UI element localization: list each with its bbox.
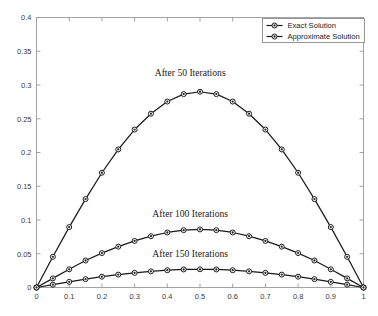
y-tick-label: 0.05 [17, 250, 32, 259]
chart-background [0, 0, 378, 316]
data-point-dot [330, 268, 332, 270]
x-tick-label: 0.4 [162, 292, 172, 301]
figure-container: 00.10.20.30.40.50.60.70.80.91 00.050.10.… [0, 0, 378, 316]
data-point-dot [215, 268, 217, 270]
data-point-dot [313, 278, 315, 280]
data-point-dot [117, 148, 119, 150]
data-point-dot [166, 269, 168, 271]
y-tick-label: 0.3 [21, 81, 31, 90]
legend-marker-dot [273, 35, 275, 37]
data-point-dot [133, 128, 135, 130]
data-point-dot [297, 276, 299, 278]
data-point-dot [264, 128, 266, 130]
x-tick-label: 0.3 [129, 292, 139, 301]
x-tick-label: 0.9 [326, 292, 336, 301]
data-point-dot [248, 270, 250, 272]
data-point-dot [52, 284, 54, 286]
data-point-dot [150, 113, 152, 115]
data-point-dot [281, 273, 283, 275]
annotation-text: After 100 Iterations [152, 208, 228, 219]
data-point-dot [84, 259, 86, 261]
data-point-dot [313, 198, 315, 200]
legend-marker-dot [273, 24, 275, 26]
data-point-dot [215, 93, 217, 95]
data-point-dot [133, 240, 135, 242]
data-point-dot [232, 269, 234, 271]
y-tick-label: 0.15 [17, 182, 32, 191]
y-tick-label: 0.4 [21, 13, 31, 22]
data-point-dot [117, 246, 119, 248]
x-tick-label: 0.8 [293, 292, 303, 301]
data-point-dot [117, 273, 119, 275]
x-tick-label: 0.5 [195, 292, 205, 301]
data-point-dot [346, 284, 348, 286]
data-point-dot [297, 172, 299, 174]
annotation-text: After 50 Iterations [155, 67, 226, 78]
data-point-dot [150, 270, 152, 272]
data-point-dot [101, 276, 103, 278]
x-tick-label: 0 [34, 292, 38, 301]
data-point-dot [52, 256, 54, 258]
x-tick-label: 0.1 [64, 292, 74, 301]
data-point-dot [84, 278, 86, 280]
data-point-dot [101, 172, 103, 174]
data-point-dot [199, 268, 201, 270]
y-tick-label: 0 [27, 283, 31, 292]
data-point-dot [199, 228, 201, 230]
data-point-dot [166, 100, 168, 102]
data-point-dot [84, 198, 86, 200]
line-chart: 00.10.20.30.40.50.60.70.80.91 00.050.10.… [0, 0, 378, 316]
data-point-dot [150, 235, 152, 237]
data-point-dot [362, 286, 364, 288]
data-point-dot [232, 100, 234, 102]
data-point-dot [281, 246, 283, 248]
y-tick-label: 0.35 [17, 47, 32, 56]
data-point-dot [199, 91, 201, 93]
data-point-dot [297, 252, 299, 254]
data-point-dot [330, 281, 332, 283]
x-tick-label: 0.2 [97, 292, 107, 301]
data-point-dot [183, 93, 185, 95]
data-point-dot [133, 272, 135, 274]
data-point-dot [330, 226, 332, 228]
y-tick-label: 0.1 [21, 216, 31, 225]
data-point-dot [232, 231, 234, 233]
data-point-dot [248, 235, 250, 237]
data-point-dot [68, 226, 70, 228]
chart-legend[interactable]: Exact SolutionApproximate Solution [263, 19, 365, 43]
data-point-dot [346, 256, 348, 258]
data-point-dot [101, 252, 103, 254]
data-point-dot [313, 259, 315, 261]
data-point-dot [264, 272, 266, 274]
data-point-dot [68, 281, 70, 283]
legend-label: Approximate Solution [288, 32, 360, 41]
data-point-dot [248, 113, 250, 115]
data-point-dot [215, 229, 217, 231]
x-tick-label: 1 [361, 292, 365, 301]
data-point-dot [183, 268, 185, 270]
data-point-dot [346, 277, 348, 279]
data-point-dot [281, 148, 283, 150]
x-tick-label: 0.6 [227, 292, 237, 301]
data-point-dot [35, 286, 37, 288]
data-point-dot [68, 268, 70, 270]
data-point-dot [166, 231, 168, 233]
x-tick-label: 0.7 [260, 292, 270, 301]
y-tick-label: 0.2 [21, 148, 31, 157]
data-point-dot [264, 240, 266, 242]
y-tick-label: 0.25 [17, 115, 32, 124]
annotation-text: After 150 Iterations [152, 248, 228, 259]
data-point-dot [183, 229, 185, 231]
legend-label: Exact Solution [288, 21, 337, 30]
data-point-dot [52, 277, 54, 279]
